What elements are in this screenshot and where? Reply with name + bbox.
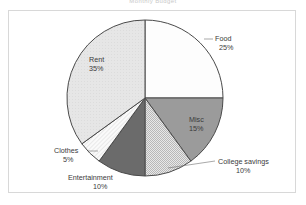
pie-slice-food[interactable] [145, 20, 223, 98]
pie-chart-svg: Food 25% Misc 15% College savings 10% En… [0, 0, 306, 205]
slice-label-food: Food [215, 34, 231, 43]
pie-chart-figure: Monthly Budget [0, 0, 306, 205]
slice-label-college-savings: College savings [218, 157, 269, 166]
slice-value-entertainment: 10% [93, 182, 108, 191]
slice-label-entertainment: Entertainment [68, 173, 113, 182]
slice-value-food: 25% [219, 43, 234, 52]
slice-label-misc: Misc [189, 115, 204, 124]
slice-value-college-savings: 10% [236, 166, 251, 175]
slice-label-clothes: Clothes [54, 146, 79, 155]
slice-label-rent: Rent [89, 55, 104, 64]
slice-value-rent: 35% [89, 64, 104, 73]
slice-value-misc: 15% [189, 124, 204, 133]
slice-value-clothes: 5% [63, 155, 74, 164]
